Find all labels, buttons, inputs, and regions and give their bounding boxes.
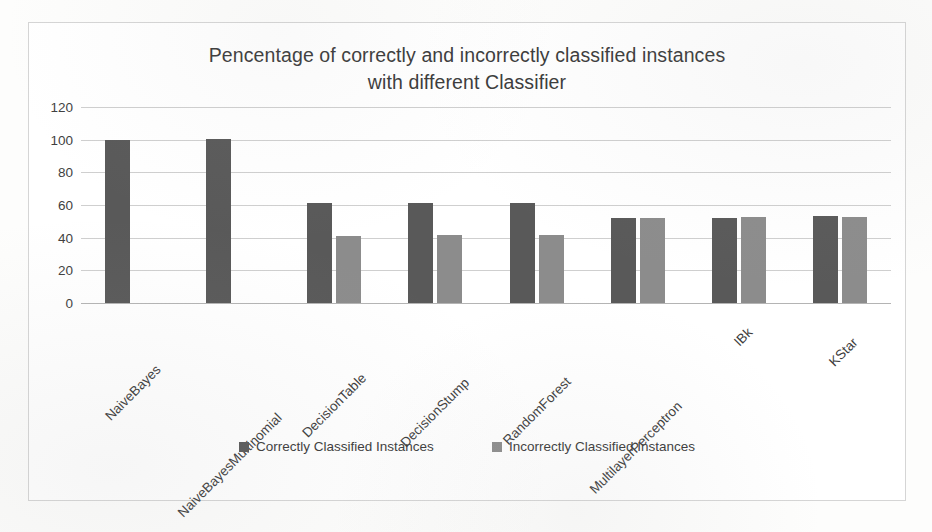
bar-group <box>790 107 891 303</box>
bar <box>206 139 231 303</box>
legend-swatch-icon <box>239 442 249 452</box>
y-axis-tick-label: 100 <box>50 132 73 147</box>
x-axis-category-label: NaiveBayesMultinomial <box>175 410 285 520</box>
x-axis-category-label: IBk <box>731 325 755 349</box>
y-axis-tick-label: 0 <box>65 296 73 311</box>
bar-group <box>182 107 283 303</box>
bar <box>813 216 838 303</box>
gridline <box>81 303 891 304</box>
legend-item: Incorrectly Classified Instances <box>492 439 695 454</box>
y-axis-tick-label: 40 <box>58 230 73 245</box>
chart-legend: Correctly Classified InstancesIncorrectl… <box>29 439 905 454</box>
legend-label: Correctly Classified Instances <box>256 439 434 454</box>
bar-group <box>486 107 587 303</box>
bar <box>640 218 665 303</box>
legend-item: Correctly Classified Instances <box>239 439 434 454</box>
y-axis-tick-label: 60 <box>58 198 73 213</box>
legend-label: Incorrectly Classified Instances <box>509 439 695 454</box>
bar-group <box>284 107 385 303</box>
bar-group <box>81 107 182 303</box>
bar <box>105 140 130 303</box>
bar <box>611 218 636 303</box>
x-axis-category-label: NaiveBayes <box>102 362 164 424</box>
bar <box>336 236 361 303</box>
plot-area: 120100806040200 <box>81 107 891 303</box>
bar <box>842 217 867 303</box>
x-axis-category-label: DecisionTable <box>299 370 369 440</box>
x-axis-labels: NaiveBayesNaiveBayesMultinomialDecisionT… <box>81 305 891 435</box>
chart-title: Pencentage of correctly and incorrectly … <box>29 42 905 96</box>
y-axis-tick-label: 80 <box>58 165 73 180</box>
x-axis-category-label: RandomForest <box>500 374 574 448</box>
y-axis-tick-label: 20 <box>58 263 73 278</box>
bar <box>539 235 564 303</box>
chart-frame: Pencentage of correctly and incorrectly … <box>28 22 906 501</box>
bars-layer <box>81 107 891 303</box>
bar <box>408 203 433 303</box>
bar-group <box>587 107 688 303</box>
scanned-page: Pencentage of correctly and incorrectly … <box>0 0 932 532</box>
bar <box>510 203 535 303</box>
bar <box>307 203 332 303</box>
legend-swatch-icon <box>492 442 502 452</box>
bar <box>741 217 766 303</box>
bar <box>712 218 737 303</box>
y-axis-tick-label: 120 <box>50 100 73 115</box>
bar-group <box>689 107 790 303</box>
x-axis-category-label: KStar <box>826 335 860 369</box>
bar-group <box>385 107 486 303</box>
bar <box>437 235 462 303</box>
